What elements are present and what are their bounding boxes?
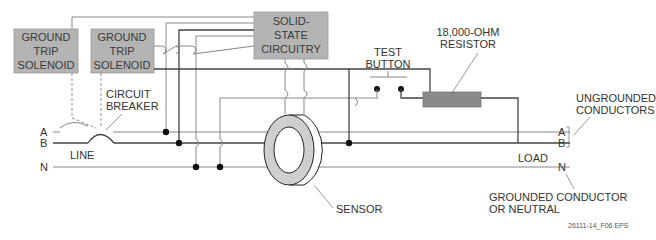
wire-solenoid2-hop bbox=[154, 46, 254, 54]
solenoid-1-label-line1: GROUND bbox=[22, 31, 71, 43]
solenoid-2-label-line2: TRIP bbox=[109, 45, 134, 57]
ungrounded-bracket bbox=[566, 127, 569, 147]
resistor-leader bbox=[452, 53, 478, 93]
junction-b-load bbox=[346, 140, 352, 146]
solenoid-2-label-line3: SOLENOID bbox=[94, 59, 151, 71]
breaker-linkage bbox=[72, 118, 96, 128]
solenoid-1-label-line2: TRIP bbox=[33, 45, 58, 57]
solid-state-label-line3: CIRCUITRY bbox=[261, 43, 321, 55]
ungrounded-label-line2: CONDUCTORS bbox=[576, 104, 655, 116]
line-b-label: B bbox=[40, 137, 47, 149]
sensor-lead-1 bbox=[285, 59, 288, 114]
circuit-breaker-label-line2: BREAKER bbox=[106, 100, 159, 112]
sensor-lead-2 bbox=[304, 59, 307, 114]
resistor-label-line2: RESISTOR bbox=[440, 38, 496, 50]
solenoid-2-label-line1: GROUND bbox=[98, 31, 147, 43]
breaker-contact-b bbox=[88, 135, 114, 144]
solid-state-label-line1: SOLID- bbox=[273, 15, 310, 27]
solenoid-1-label-line3: SOLENOID bbox=[18, 59, 75, 71]
resistor bbox=[423, 92, 481, 107]
sensor-toroid bbox=[264, 115, 322, 185]
breaker-leader bbox=[106, 114, 122, 130]
test-button[interactable] bbox=[370, 71, 423, 98]
ground-trip-solenoid-1: GROUND TRIP SOLENOID bbox=[14, 29, 78, 73]
figure-id: 26111-14_F06.EPS bbox=[568, 222, 629, 230]
wire-solenoid2-to-test bbox=[154, 69, 430, 98]
wire-ss-to-b bbox=[179, 30, 254, 143]
resistor-label-line1: 18,000-OHM bbox=[437, 26, 500, 38]
sensor-leader bbox=[314, 185, 333, 208]
circuit-breaker-label-line1: CIRCUIT bbox=[106, 88, 151, 100]
load-b-label: B bbox=[558, 137, 565, 149]
grounded-leader bbox=[566, 174, 574, 189]
ungrounded-leader bbox=[574, 117, 590, 135]
junction-a bbox=[163, 129, 169, 135]
wire-ss-to-n1 bbox=[196, 36, 254, 167]
load-label: LOAD bbox=[518, 152, 548, 164]
ungrounded-label-line1: UNGROUNDED bbox=[576, 92, 656, 104]
grounded-label-line1: GROUNDED CONDUCTOR bbox=[489, 191, 628, 203]
line-label: LINE bbox=[70, 149, 94, 161]
wire-to-test-button bbox=[220, 98, 358, 106]
solid-state-circuitry: SOLID- STATE CIRCUITRY bbox=[254, 12, 328, 59]
wire-resistor-to-b bbox=[481, 98, 518, 143]
sensor-label: SENSOR bbox=[336, 203, 383, 215]
load-n-label: N bbox=[558, 161, 566, 173]
junction-n1 bbox=[193, 164, 199, 170]
ground-trip-solenoid-2: GROUND TRIP SOLENOID bbox=[91, 29, 154, 73]
test-button-label-line2: BUTTON bbox=[365, 58, 410, 70]
grounded-label-line2: OR NEUTRAL bbox=[489, 203, 560, 215]
line-n-label: N bbox=[40, 161, 48, 173]
gfci-schematic: GROUND TRIP SOLENOID GROUND TRIP SOLENOI… bbox=[0, 0, 656, 240]
junction-b bbox=[176, 140, 182, 146]
solid-state-label-line2: STATE bbox=[274, 29, 308, 41]
test-button-label-line1: TEST bbox=[374, 46, 402, 58]
junction-n2 bbox=[217, 164, 223, 170]
